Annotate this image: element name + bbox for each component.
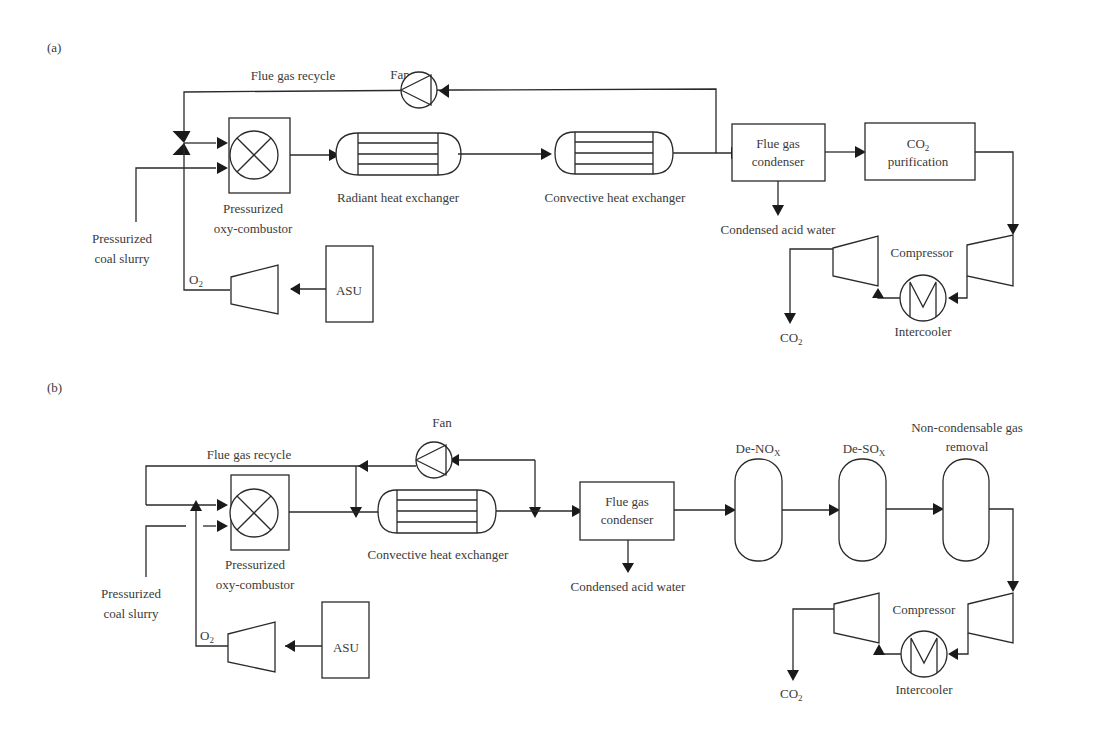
co2-output-label: CO2 (780, 686, 803, 703)
flow-line (975, 152, 1013, 224)
flow-line (790, 249, 833, 313)
flue-gas-condenser (732, 124, 825, 181)
arrow-right-icon (217, 162, 228, 174)
asu-label: ASU (333, 640, 360, 655)
fan-icon (416, 442, 452, 478)
coal-slurry-label-2: coal slurry (103, 606, 159, 621)
flow-line (793, 609, 834, 670)
compressor-2 (967, 235, 1013, 286)
flue-gas-recycle-label: Flue gas recycle (207, 447, 292, 462)
arrow-right-icon (217, 499, 228, 511)
arrow-left-icon (948, 648, 958, 660)
ncg-removal-vessel (943, 459, 989, 561)
flow-line (957, 276, 967, 298)
intercooler-label: Intercooler (894, 324, 952, 339)
acid-water-label: Condensed acid water (571, 579, 686, 594)
flue-gas-recycle-label: Flue gas recycle (251, 68, 336, 83)
coal-slurry-line (146, 526, 186, 577)
panel-b: (b) Fan Flue gas recycle O2 Pressurized … (47, 380, 1023, 703)
intercooler-icon (901, 631, 947, 677)
flue-gas-condenser (580, 482, 674, 540)
ncg-label-2: removal (946, 439, 989, 454)
coal-slurry-label-1: Pressurized (92, 231, 152, 246)
convective-heat-exchanger (555, 132, 673, 174)
coal-slurry-line (136, 168, 216, 222)
radiant-heat-exchanger (336, 133, 461, 175)
condenser-label-2: condenser (752, 154, 805, 169)
convective-heat-exchanger (378, 490, 496, 533)
compressor-2 (968, 593, 1013, 643)
condenser-label-1: Flue gas (605, 494, 649, 509)
condenser-label-1: Flue gas (756, 136, 800, 151)
compressor-1 (833, 236, 878, 286)
oxy-combustor (230, 475, 289, 550)
panel-a: (a) Fan Flue gas recycle O2 Pressurized … (47, 40, 1019, 347)
condenser-label-2: condenser (601, 512, 654, 527)
compressor-label: Compressor (893, 602, 957, 617)
arrow-down-icon (173, 131, 191, 143)
arrow-down-icon (772, 205, 784, 216)
ncg-label-1: Non-condensable gas (911, 420, 1023, 435)
arrow-right-icon (541, 148, 552, 160)
o2-line (184, 143, 230, 290)
arrow-left-icon (285, 640, 295, 652)
combustor-label-2: oxy-combustor (214, 221, 293, 236)
fan-label: Fan (432, 415, 452, 430)
co2-purification-label-2: purification (888, 154, 949, 169)
arrow-down-icon (622, 563, 634, 573)
arrow-left-icon (439, 84, 449, 98)
o2-label: O2 (200, 628, 214, 645)
arrow-down-icon (529, 507, 541, 518)
flow-line (989, 509, 1013, 581)
convective-hx-label: Convective heat exchanger (545, 190, 686, 205)
arrow-left-icon (948, 292, 958, 304)
arrow-right-icon (217, 137, 228, 149)
arrow-down-icon (787, 670, 799, 681)
coal-slurry-label-1: Pressurized (101, 586, 161, 601)
flow-line (958, 633, 968, 654)
de-nox-label: De-NOX (736, 441, 781, 458)
process-flow-diagram: (a) Fan Flue gas recycle O2 Pressurized … (0, 0, 1094, 731)
de-nox-vessel (735, 459, 782, 561)
combustor-label-1: Pressurized (223, 201, 283, 216)
arrow-down-icon (1007, 224, 1019, 235)
o2-compressor (231, 265, 278, 314)
panel-a-label: (a) (47, 40, 61, 55)
oxy-combustor (229, 118, 290, 193)
arrow-down-icon (1007, 581, 1019, 592)
convective-hx-label: Convective heat exchanger (368, 547, 509, 562)
fan-icon (401, 72, 437, 108)
o2-label: O2 (189, 272, 203, 289)
coal-slurry-label-2: coal slurry (94, 251, 150, 266)
de-sox-label: De-SOX (843, 441, 886, 458)
panel-b-label: (b) (47, 380, 62, 395)
compressor-label: Compressor (891, 245, 955, 260)
co2-output-label: CO2 (780, 330, 803, 347)
arrow-up-icon (872, 288, 884, 298)
co2-purification (865, 123, 975, 180)
arrow-up-icon (173, 143, 191, 155)
acid-water-label: Condensed acid water (721, 222, 836, 237)
intercooler-label: Intercooler (895, 682, 953, 697)
arrow-down-icon (784, 313, 796, 324)
intercooler-icon (900, 275, 946, 321)
combustor-label-1: Pressurized (225, 557, 285, 572)
arrow-up-icon (873, 644, 885, 655)
o2-compressor (228, 622, 275, 672)
compressor-1 (834, 593, 879, 643)
arrow-left-icon (290, 283, 300, 295)
arrow-right-icon (855, 146, 866, 158)
asu-label: ASU (336, 283, 363, 298)
combustor-label-2: oxy-combustor (216, 577, 295, 592)
radiant-hx-label: Radiant heat exchanger (337, 190, 460, 205)
de-sox-vessel (839, 459, 886, 561)
arrow-left-icon (358, 460, 368, 472)
arrow-right-icon (217, 520, 228, 532)
